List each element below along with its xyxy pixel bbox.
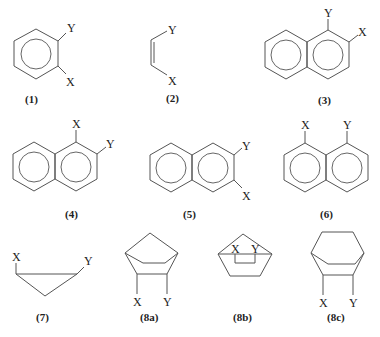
structure-4: X Y (4)	[13, 117, 115, 221]
substituent-y: Y	[349, 296, 358, 310]
structure-label: (8a)	[140, 311, 159, 324]
structure-3: Y X (3)	[265, 6, 367, 107]
structure-label: (4)	[65, 208, 78, 221]
substituent-y: Y	[84, 254, 93, 268]
substituent-y: Y	[343, 118, 352, 132]
substituent-x: X	[358, 25, 367, 39]
substituent-x: X	[301, 118, 310, 132]
substituent-x: X	[72, 117, 81, 131]
structure-label: (1)	[25, 93, 38, 106]
substituent-x: X	[231, 242, 240, 256]
structure-label: (8c)	[327, 311, 345, 324]
structure-label: (2)	[166, 92, 179, 105]
structure-6: X Y (6)	[284, 118, 368, 221]
substituent-x: X	[133, 295, 142, 309]
substituent-y: Y	[168, 23, 177, 37]
substituent-x: X	[242, 189, 251, 203]
structure-label: (8b)	[233, 311, 252, 324]
substituent-y: Y	[163, 295, 172, 309]
structure-8b: X Y (8b)	[218, 234, 272, 324]
structure-1: Y X (1)	[14, 21, 76, 106]
structure-7: X Y (7)	[12, 250, 93, 324]
substituent-x: X	[66, 75, 75, 89]
substituent-x: X	[168, 74, 177, 88]
structure-label: (3)	[318, 94, 331, 107]
structure-label: (6)	[320, 208, 333, 221]
structure-8a: X Y (8a)	[125, 233, 178, 324]
structure-8c: X Y (8c)	[311, 232, 364, 324]
substituent-y: Y	[251, 242, 260, 256]
substituent-x: X	[12, 250, 21, 264]
structure-label: (5)	[183, 208, 196, 221]
substituent-x: X	[319, 296, 328, 310]
structure-label: (7)	[36, 311, 49, 324]
structure-diagram: Y X (1) Y X (2) Y X (3) X Y (4)	[0, 0, 380, 337]
structure-2: Y X (2)	[151, 23, 179, 105]
substituent-y: Y	[242, 139, 251, 153]
substituent-y: Y	[67, 21, 76, 35]
substituent-y: Y	[106, 137, 115, 151]
structure-5: Y X (5)	[150, 139, 251, 221]
substituent-y: Y	[324, 6, 333, 20]
